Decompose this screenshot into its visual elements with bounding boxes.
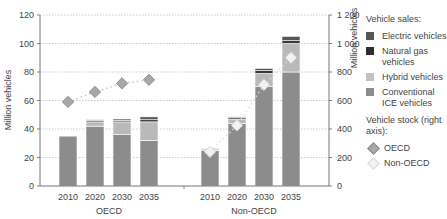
x-tick-label: 2030 [254,192,274,202]
bar-segment [86,122,104,126]
right-tick-label: 0 [337,181,342,191]
x-tick-label: 2020 [227,192,247,202]
legend-item: Hybrid vehicles [366,72,447,83]
legend-stock-title: Vehicle stock (right axis): [366,115,447,137]
bar-segment [140,122,158,141]
right-tick-label: 400 [337,124,352,134]
bar-segment [255,86,273,186]
right-tick-label: 600 [337,96,352,106]
legend-swatch [366,73,374,81]
diamond-icon [368,158,378,168]
legend-label: Electric vehicles [382,31,447,42]
legend-item: Natural gas vehicles [366,46,447,68]
left-tick-label: 0 [29,181,34,191]
bar-segment [282,36,300,40]
diamond-marker [62,96,73,107]
bar-segment [113,119,131,120]
chart-legend: Vehicle sales: Electric vehiclesNatural … [366,14,447,173]
x-tick-label: 2035 [139,192,159,202]
bar-segment [86,120,104,121]
legend-label: Conventional ICE vehicles [382,87,447,109]
bar-segment [228,123,246,186]
bar-segment [59,136,77,186]
legend-sales-title: Vehicle sales: [366,14,447,25]
bar-segment [113,135,131,186]
diamond-marker [116,78,127,89]
bar-segment [282,72,300,186]
left-tick-label: 100 [19,39,34,49]
right-tick-label: 200 [337,153,352,163]
x-tick-label: 2030 [112,192,132,202]
legend-item: Electric vehicles [366,31,447,42]
legend-item: Non-OECD [366,158,447,169]
group-label-nonoecd: Non-OECD [231,206,277,216]
x-tick-label: 2035 [281,192,301,202]
x-tick-label: 2020 [85,192,105,202]
diamond-icon [368,143,378,153]
left-tick-label: 80 [24,67,34,77]
bar-segment [113,122,131,135]
legend-swatch [366,47,374,55]
bar-segment [255,71,273,74]
legend-label: OECD [384,143,447,154]
left-axis-title: Million vehicles [3,69,13,130]
legend-item: OECD [366,143,447,154]
stacked-bars [59,36,300,186]
bar-segment [140,117,158,120]
left-tick-label: 20 [24,153,34,163]
legend-label: Hybrid vehicles [382,72,447,83]
bar-segment [282,41,300,44]
left-tick-label: 60 [24,96,34,106]
left-tick-label: 40 [24,124,34,134]
diamond-marker [89,86,100,97]
legend-label: Non-OECD [384,158,447,169]
bar-segment [255,68,273,70]
left-tick-label: 120 [19,10,34,20]
right-axis-title: Million vehicles [349,7,359,68]
stock-line-oecd [68,80,149,102]
x-tick-label: 2010 [200,192,220,202]
legend-swatch [366,32,374,40]
diamond-marker [143,74,154,85]
legend-label: Natural gas vehicles [382,46,447,68]
bar-segment [140,120,158,122]
bar-segment [86,126,104,186]
bar-segment [228,117,246,118]
group-label-oecd: OECD [96,206,123,216]
legend-swatch [366,88,374,96]
legend-item: Conventional ICE vehicles [366,87,447,109]
x-tick-label: 2010 [58,192,78,202]
bar-segment [140,140,158,186]
